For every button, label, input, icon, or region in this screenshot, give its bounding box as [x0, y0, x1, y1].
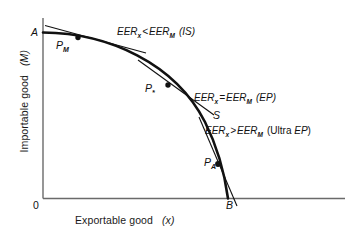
point-label-pa-sub: A: [211, 163, 216, 170]
annotation-ultra-regime-prefix: (Ultra: [267, 125, 294, 136]
annotation-ep-rhs-sub: M: [247, 98, 252, 105]
x-axis-title: Exportable good (x): [75, 215, 175, 226]
annotation-ultra-export-promotion: EERx>EERM(Ultra EP): [205, 126, 311, 139]
annotation-ultra-regime-italic: EP: [294, 125, 307, 136]
annotation-is-operator: <: [141, 26, 149, 37]
annotation-is-lhs: EER: [117, 26, 138, 37]
y-axis-title-text: Importable good: [18, 75, 30, 152]
point-label-pa: PA: [204, 157, 216, 170]
annotation-export-promotion: EERx=EERM(EP): [194, 93, 276, 106]
ppf-figure: Importable good (M) Exportable good (x) …: [0, 0, 359, 236]
ppf-curve: [43, 33, 228, 199]
annotation-import-substitution: EERx<EERM(IS): [117, 27, 195, 40]
annotation-ultra-lhs: EER: [205, 125, 226, 136]
annotation-ep-lhs: EER: [194, 92, 215, 103]
x-axis-title-text: Exportable good: [75, 214, 153, 226]
point-marker-pstar: [165, 82, 170, 87]
annotation-is-rhs: EER: [149, 26, 170, 37]
y-intercept-label-a: A: [31, 27, 38, 38]
annotation-ultra-rhs-sub: M: [258, 131, 263, 138]
y-axis-symbol: (M): [18, 50, 30, 66]
annotation-ep-operator: =: [218, 92, 226, 103]
point-label-pstar-sub: *: [152, 89, 155, 96]
x-intercept-label-b: B: [226, 200, 233, 211]
point-label-pa-base: P: [204, 156, 211, 168]
annotation-is-rhs-sub: M: [170, 32, 175, 39]
annotation-is-regime: (IS): [179, 26, 195, 37]
origin-label: 0: [33, 200, 39, 211]
point-label-pm-base: P: [56, 39, 63, 51]
point-label-pm: PM: [56, 40, 69, 53]
point-label-pm-sub: M: [63, 46, 69, 53]
point-label-pstar-base: P: [145, 82, 152, 94]
annotation-ep-rhs: EER: [226, 92, 247, 103]
point-label-pstar: P*: [145, 83, 155, 96]
y-axis-title: Importable good (M): [19, 31, 30, 171]
annotation-ep-regime: (EP): [256, 92, 276, 103]
annotation-ultra-rhs: EER: [237, 125, 258, 136]
point-marker-pm: [75, 35, 80, 40]
tangent-end-label-s: S: [213, 110, 220, 121]
annotation-ultra-operator: >: [229, 125, 237, 136]
annotation-ultra-regime-suffix: ): [308, 125, 311, 136]
x-axis-symbol: (x): [162, 214, 175, 226]
